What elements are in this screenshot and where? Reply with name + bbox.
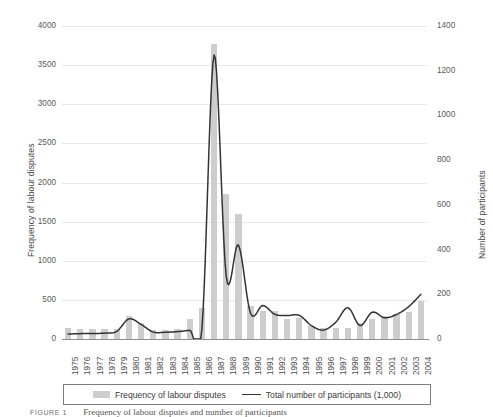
x-tick-label: 2002 xyxy=(400,357,409,375)
x-tick-label: 1993 xyxy=(290,357,299,375)
x-tick-label: 2003 xyxy=(412,357,421,375)
x-tick-label: 1996 xyxy=(327,357,336,375)
x-tick-label: 1983 xyxy=(169,357,178,375)
figure-caption-label: FIGURE 1 xyxy=(30,409,67,416)
y-tick-label-right: 400 xyxy=(437,245,493,254)
x-tick-label: 1980 xyxy=(132,357,141,375)
x-tick-label: 1987 xyxy=(217,357,226,375)
bar-swatch-icon xyxy=(93,391,110,398)
x-tick-label: 2004 xyxy=(424,357,433,375)
legend-label-participants: Total number of participants (1,000) xyxy=(266,390,401,400)
y-tick-label-right: 600 xyxy=(437,200,493,209)
y-tick-label-left: 3500 xyxy=(0,60,56,69)
y-tick-label-right: 1200 xyxy=(437,66,493,75)
y-tick-label-left: 1000 xyxy=(0,256,56,265)
y-tick-label-right: 0 xyxy=(437,334,493,343)
legend-label-frequency: Frequency of labour disputes xyxy=(115,390,226,400)
x-tick-label: 1984 xyxy=(181,357,190,375)
y-tick-label-left: 2500 xyxy=(0,138,56,147)
x-tick-label: 1988 xyxy=(229,357,238,375)
x-tick-label: 1994 xyxy=(302,357,311,375)
legend-item-frequency: Frequency of labour disputes xyxy=(93,390,226,400)
x-tick-label: 1986 xyxy=(205,357,214,375)
x-tick-label: 1979 xyxy=(120,357,129,375)
x-tick-label: 1985 xyxy=(193,357,202,375)
x-tick-label: 2000 xyxy=(375,357,384,375)
x-tick-label: 1992 xyxy=(278,357,287,375)
x-tick-label: 1975 xyxy=(71,357,80,375)
y-tick-label-right: 1000 xyxy=(437,110,493,119)
chart-legend: Frequency of labour disputes Total numbe… xyxy=(63,384,431,405)
participants-polyline xyxy=(68,55,421,339)
x-tick-label: 1990 xyxy=(254,357,263,375)
x-tick-label: 1976 xyxy=(83,357,92,375)
y-tick-label-left: 0 xyxy=(0,334,56,343)
y-tick-label-left: 3000 xyxy=(0,99,56,108)
x-tick-label: 1999 xyxy=(363,357,372,375)
legend-item-participants: Total number of participants (1,000) xyxy=(242,390,401,400)
figure-caption: FIGURE 1 Frequency of labour disputes an… xyxy=(0,407,493,417)
y-tick-label-right: 800 xyxy=(437,155,493,164)
y-tick-label-left: 2000 xyxy=(0,178,56,187)
x-tick-label: 1997 xyxy=(339,357,348,375)
x-tick-label: 1998 xyxy=(351,357,360,375)
x-tick-label: 1991 xyxy=(266,357,275,375)
y-tick-label-left: 500 xyxy=(0,295,56,304)
x-tick-label: 1977 xyxy=(96,357,105,375)
line-swatch-icon xyxy=(242,394,261,395)
line-series-total-number-of-participants xyxy=(62,26,427,339)
x-axis-baseline xyxy=(62,339,429,340)
y-tick-label-left: 4000 xyxy=(0,21,56,30)
y-axis-title-left: Frequency of labour disputes xyxy=(26,143,36,257)
y-tick-label-right: 200 xyxy=(437,289,493,298)
x-tick-label: 2001 xyxy=(388,357,397,375)
x-tick-label: 1978 xyxy=(108,357,117,375)
x-tick-label: 1982 xyxy=(156,357,165,375)
figure-caption-text: Frequency of labour disputes and number … xyxy=(83,407,287,417)
x-tick-label: 1981 xyxy=(144,357,153,375)
chart-figure: Frequency of labour disputes Number of p… xyxy=(0,0,493,417)
y-tick-label-right: 1400 xyxy=(437,21,493,30)
participants-line-svg xyxy=(62,26,427,339)
y-tick-label-left: 1500 xyxy=(0,217,56,226)
x-tick-label: 1995 xyxy=(315,357,324,375)
x-tick-label: 1989 xyxy=(242,357,251,375)
